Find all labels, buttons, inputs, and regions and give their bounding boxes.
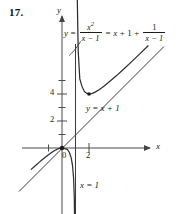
equation-plus-1: + — [117, 28, 127, 38]
fraction-one-over-x-minus-1: 1 x − 1 — [143, 23, 165, 43]
fraction-denominator: x − 1 — [80, 34, 102, 43]
curve-right-branch — [77, 0, 149, 94]
y-tick-label-4: 4 — [50, 87, 54, 97]
y-tick-label-2: 2 — [50, 114, 54, 124]
equation-equals-2: = — [103, 28, 113, 38]
equation-plus-2: + — [132, 28, 142, 38]
x-axis-label: x — [156, 142, 160, 151]
exponent-2: 2 — [91, 20, 94, 27]
equation-equals-1: = — [68, 28, 78, 38]
local-min-point — [87, 92, 91, 96]
asymptote-equation-label: x = 1 — [80, 181, 99, 190]
fraction-x-squared-over-x-minus-1: x2 x − 1 — [80, 23, 102, 43]
x-tick-label-2: 2 — [86, 150, 90, 160]
equation-label: y = x2 x − 1 = x + 1 + 1 x − 1 — [64, 23, 167, 43]
fraction2-denominator: x − 1 — [143, 34, 165, 43]
line-equation-label: y = x + 1 — [86, 104, 120, 113]
line-y-equals-x-plus-1 — [19, 47, 164, 192]
y-axis-label: y — [57, 6, 61, 15]
fraction-numerator: x2 — [85, 23, 96, 32]
origin-label: 0 — [62, 150, 66, 160]
fraction2-numerator: 1 — [150, 23, 158, 32]
